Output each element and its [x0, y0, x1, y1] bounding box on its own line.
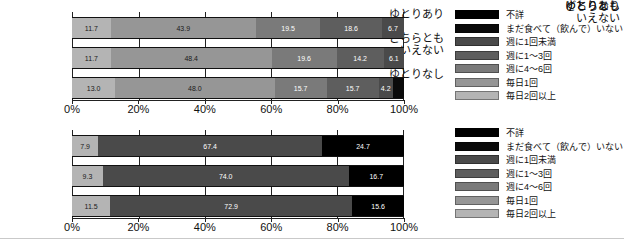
legend-swatch — [455, 78, 499, 87]
bar-segment: 4.2 — [379, 78, 393, 98]
legend-item[interactable]: 毎日1回 — [455, 76, 624, 90]
legend-item[interactable]: 週に1〜3回 — [455, 167, 624, 181]
legend-item[interactable]: 週に4〜6回 — [455, 62, 624, 76]
bar-segment: 19.5 — [256, 18, 320, 38]
legend-item[interactable]: まだ食べて（飲んで）いない — [455, 140, 624, 154]
legend-item[interactable]: 週に1〜3回 — [455, 49, 624, 63]
bar-segment-value: 6.1 — [389, 55, 399, 62]
bar-segment: 6.7 — [382, 18, 404, 38]
legend-item[interactable]: 週に1回未満 — [455, 35, 624, 49]
bar-segment-value: 48.4 — [184, 55, 198, 62]
axis-tick-label: 40% — [185, 221, 225, 233]
legend-swatch — [455, 51, 499, 60]
bar-segment: 15.7 — [327, 78, 379, 98]
legend-label: 週に1回未満 — [499, 153, 556, 166]
bar-segment-value: 19.6 — [297, 55, 311, 62]
lower-legend: 不詳まだ食べて（飲んで）いない週に1回未満週に1〜3回週に4〜6回毎日1回毎日2… — [455, 126, 624, 221]
upper-bar-row-1: 11.748.419.614.26.1 — [72, 47, 404, 69]
legend-label: 週に1回未満 — [499, 35, 556, 48]
legend-label: 週に1〜3回 — [499, 167, 552, 180]
legend-item[interactable]: 不詳 — [455, 8, 624, 22]
axis-tick-label: 60% — [251, 221, 291, 233]
axis-tick-label: 40% — [185, 103, 225, 115]
legend-swatch — [455, 64, 499, 73]
legend-swatch — [455, 182, 499, 191]
legend-label: まだ食べて（飲んで）いない — [499, 22, 623, 35]
bar-segment: 48.0 — [115, 78, 274, 98]
upper-chart: ゆとりあり どちらとも いえない ゆとりなし 11.743.919.518.66… — [0, 0, 448, 118]
axis-tick-label: 0% — [52, 103, 92, 115]
legend-swatch — [455, 128, 499, 137]
bar-segment-value: 15.7 — [294, 85, 308, 92]
legend-item[interactable]: 毎日1回 — [455, 194, 624, 208]
bar-segment-value: 19.5 — [281, 25, 295, 32]
axis-tick-label: 80% — [318, 221, 358, 233]
axis-tick-label: 100% — [384, 221, 424, 233]
bar-segment: 19.6 — [272, 48, 337, 68]
legend-label: 週に4〜6回 — [499, 180, 552, 193]
legend-swatch — [455, 169, 499, 178]
bar-segment-value: 48.0 — [188, 85, 202, 92]
legend-item[interactable]: 毎日2回以上 — [455, 89, 624, 103]
bar-segment-value: 6.7 — [388, 25, 398, 32]
bar-segment: 18.6 — [320, 18, 382, 38]
upper-plot-wrap: 11.743.919.518.66.7 11.748.419.614.26.1 … — [72, 12, 404, 100]
legend-item[interactable]: 週に1回未満 — [455, 153, 624, 167]
bar-segment-value: 13.0 — [87, 85, 101, 92]
legend-swatch — [455, 142, 499, 151]
legend-swatch — [455, 24, 499, 33]
axis-tick-label: 80% — [318, 103, 358, 115]
bar-segment-value: 11.7 — [85, 25, 98, 32]
legend-swatch — [455, 10, 499, 19]
legend-item[interactable]: 不詳 — [455, 126, 624, 140]
axis-tick-label: 0% — [52, 221, 92, 233]
bar-segment — [393, 78, 404, 98]
bar-segment-value: 15.7 — [346, 85, 360, 92]
axis-tick-label: 100% — [384, 103, 424, 115]
legend-label: 週に4〜6回 — [499, 62, 552, 75]
legend-label: 毎日2回以上 — [499, 207, 556, 220]
legend-item[interactable]: まだ食べて（飲んで）いない — [455, 22, 624, 36]
legend-label: 毎日2回以上 — [499, 89, 556, 102]
axis-tick-label: 60% — [251, 103, 291, 115]
legend-label: 毎日1回 — [499, 194, 538, 207]
lower-axis-ticks: 0%20%40%60%80%100% — [0, 118, 448, 236]
upper-bar-row-0: 11.743.919.518.66.7 — [72, 17, 404, 39]
legend-item[interactable]: 週に4〜6回 — [455, 180, 624, 194]
bar-segment-value: 11.7 — [85, 55, 98, 62]
bar-segment: 14.2 — [337, 48, 384, 68]
legend-swatch — [455, 155, 499, 164]
bar-segment-value: 4.2 — [381, 85, 391, 92]
bar-segment-value: 14.2 — [353, 55, 367, 62]
legend-swatch — [455, 91, 499, 100]
axis-tick-label: 20% — [118, 221, 158, 233]
bottom-rule — [0, 238, 624, 239]
legend-label: まだ食べて（飲んで）いない — [499, 140, 623, 153]
axis-tick-label: 20% — [118, 103, 158, 115]
legend-swatch — [455, 37, 499, 46]
bar-segment: 13.0 — [72, 78, 115, 98]
bar-segment: 11.7 — [72, 18, 111, 38]
legend-item[interactable]: 毎日2回以上 — [455, 207, 624, 221]
bar-segment: 48.4 — [111, 48, 272, 68]
bar-segment: 6.1 — [384, 48, 404, 68]
upper-bar-row-2: 13.048.015.715.74.2 — [72, 77, 404, 99]
upper-axis-line — [72, 100, 404, 101]
figure-sheet: ゆとりあり どちらとも いえない ゆとりなし 11.743.919.518.66… — [0, 0, 624, 243]
legend-swatch — [455, 209, 499, 218]
legend-swatch — [455, 196, 499, 205]
legend-label: 不詳 — [499, 8, 524, 21]
bar-segment-value: 18.6 — [344, 25, 358, 32]
upper-legend: 不詳まだ食べて（飲んで）いない週に1回未満週に1〜3回週に4〜6回毎日1回毎日2… — [455, 8, 624, 103]
bar-segment-value: 43.9 — [176, 25, 190, 32]
legend-label: 毎日1回 — [499, 76, 538, 89]
bar-segment: 15.7 — [275, 78, 327, 98]
bar-segment: 43.9 — [111, 18, 256, 38]
legend-label: 不詳 — [499, 126, 524, 139]
bar-segment: 11.7 — [72, 48, 111, 68]
legend-label: 週に1〜3回 — [499, 49, 552, 62]
